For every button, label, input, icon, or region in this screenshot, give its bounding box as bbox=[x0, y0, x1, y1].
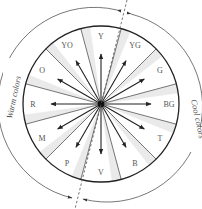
segment-label-y: Y bbox=[98, 32, 104, 41]
segment-label-o: O bbox=[39, 66, 45, 75]
segment-label-b: B bbox=[132, 159, 137, 168]
center-dot bbox=[98, 101, 104, 107]
segment-label-yo: YO bbox=[61, 41, 73, 50]
segment-label-yg: YG bbox=[129, 41, 141, 50]
divider-shade bbox=[72, 104, 101, 179]
segment-divider bbox=[26, 84, 101, 104]
segment-label-p: P bbox=[65, 159, 70, 168]
divider-shade bbox=[101, 29, 130, 104]
divider-shade bbox=[26, 75, 101, 104]
segment-label-t: T bbox=[157, 134, 162, 143]
segment-label-g: G bbox=[157, 66, 163, 75]
segment-label-r: R bbox=[30, 100, 36, 109]
segment-label-v: V bbox=[98, 168, 104, 177]
segment-label-m: M bbox=[39, 134, 46, 143]
color-wheel-diagram: YYGGBGTBVPMROYO Warm colors Cool colors bbox=[0, 0, 202, 209]
segment-label-bg: BG bbox=[163, 100, 174, 109]
